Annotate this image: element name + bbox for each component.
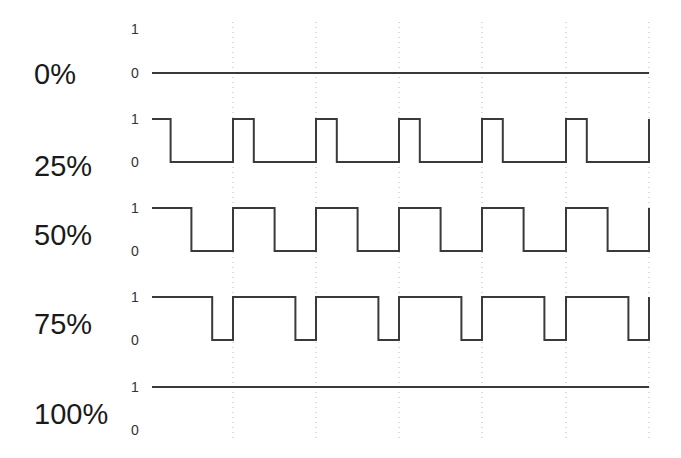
level-zero-label: 0: [131, 422, 139, 438]
waveform-row: 0%10: [34, 21, 649, 90]
level-zero-label: 0: [131, 154, 139, 170]
pwm-waveform: [152, 297, 649, 340]
waveform-row: 25%10: [34, 111, 649, 182]
waveform-row: 50%10: [34, 200, 649, 259]
duty-cycle-label: 50%: [34, 219, 92, 251]
level-one-label: 1: [131, 111, 139, 127]
level-one-label: 1: [131, 200, 139, 216]
level-one-label: 1: [131, 289, 139, 305]
waveform-row: 100%10: [34, 379, 649, 438]
duty-cycle-label: 0%: [34, 58, 76, 90]
level-zero-label: 0: [131, 243, 139, 259]
duty-cycle-label: 25%: [34, 150, 92, 182]
level-zero-label: 0: [131, 65, 139, 81]
waveform-row: 75%10: [34, 289, 649, 348]
duty-cycle-label: 100%: [34, 398, 108, 430]
duty-cycle-label: 75%: [34, 308, 92, 340]
waveform-rows: 0%1025%1050%1075%10100%10: [34, 21, 649, 438]
level-one-label: 1: [131, 21, 139, 37]
level-one-label: 1: [131, 379, 139, 395]
pwm-diagram: 0%1025%1050%1075%10100%10: [0, 0, 681, 458]
pwm-waveform: [152, 119, 649, 162]
pwm-waveform: [152, 208, 649, 251]
level-zero-label: 0: [131, 332, 139, 348]
